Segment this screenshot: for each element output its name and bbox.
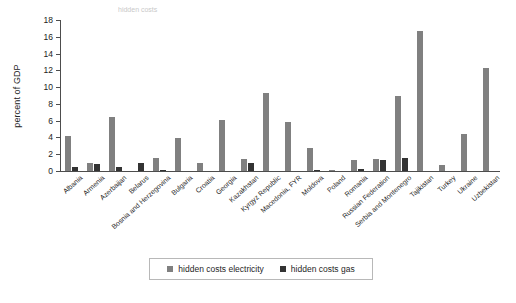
bar-group[interactable] xyxy=(324,20,346,171)
bar-group[interactable] xyxy=(171,20,193,171)
y-axis-tick-label: 2 xyxy=(48,150,53,159)
y-axis-tick-label: 10 xyxy=(44,83,53,92)
bar-gas[interactable] xyxy=(402,158,408,171)
bar-group[interactable] xyxy=(302,20,324,171)
bar-group[interactable] xyxy=(83,20,105,171)
x-axis-tick-label: Bulgaria xyxy=(170,174,194,197)
y-axis-tick-label: 16 xyxy=(44,33,53,42)
x-axis-line xyxy=(60,171,500,172)
y-axis-tick-label: 12 xyxy=(44,66,53,75)
x-axis-tick-label: Macedonia, FYR xyxy=(260,174,304,214)
y-axis-tick-label: 14 xyxy=(44,49,53,58)
bar-group[interactable] xyxy=(434,20,456,171)
y-axis-tick xyxy=(56,154,60,155)
bar-gas[interactable] xyxy=(94,164,100,171)
plot-area: 024681012141618 xyxy=(60,20,500,172)
bar-electricity[interactable] xyxy=(219,120,225,171)
bar-group[interactable] xyxy=(259,20,281,171)
bar-gas[interactable] xyxy=(72,167,78,171)
y-axis-tick-label: 6 xyxy=(48,116,53,125)
bar-group[interactable] xyxy=(478,20,500,171)
bar-group[interactable] xyxy=(149,20,171,171)
y-axis-label: percent of GDP xyxy=(10,20,24,172)
bar-group[interactable] xyxy=(412,20,434,171)
x-axis-tick-label: Albania xyxy=(62,174,84,195)
bar-group[interactable] xyxy=(127,20,149,171)
y-axis-tick xyxy=(56,70,60,71)
bar-gas[interactable] xyxy=(380,160,386,171)
bar-electricity[interactable] xyxy=(439,165,445,171)
y-axis-tick-label: 0 xyxy=(48,167,53,176)
title-fragment-right xyxy=(455,0,485,5)
bar-group[interactable] xyxy=(456,20,478,171)
bar-electricity[interactable] xyxy=(87,163,93,171)
bar-electricity[interactable] xyxy=(483,68,489,171)
legend-swatch-gas-icon xyxy=(280,266,286,272)
bar-electricity[interactable] xyxy=(65,136,71,171)
x-axis-tick-label: Moldova xyxy=(301,174,326,197)
legend-swatch-electricity-icon xyxy=(167,266,173,272)
bar-electricity[interactable] xyxy=(241,159,247,171)
bar-gas[interactable] xyxy=(314,170,320,171)
bar-electricity[interactable] xyxy=(417,31,423,171)
bar-electricity[interactable] xyxy=(285,122,291,171)
bar-electricity[interactable] xyxy=(307,148,313,171)
bar-gas[interactable] xyxy=(160,170,166,171)
chart-figure: hidden costs percent of GDP 024681012141… xyxy=(0,0,516,303)
y-axis-tick xyxy=(56,171,60,172)
x-axis-tick-label: Turkey xyxy=(436,174,457,194)
x-axis-tick-label: Tajikistan xyxy=(409,174,435,199)
legend-label-electricity: hidden costs electricity xyxy=(178,264,264,274)
bar-electricity[interactable] xyxy=(395,96,401,172)
bar-electricity[interactable] xyxy=(373,159,379,171)
bar-electricity[interactable] xyxy=(263,93,269,171)
x-axis-tick-label: Croatia xyxy=(194,174,216,195)
bar-group[interactable] xyxy=(346,20,368,171)
y-axis-label-text: percent of GDP xyxy=(12,64,22,127)
bar-group[interactable] xyxy=(237,20,259,171)
bar-group[interactable] xyxy=(281,20,303,171)
y-axis-tick-label: 4 xyxy=(48,133,53,142)
y-axis-tick xyxy=(56,54,60,55)
bar-electricity[interactable] xyxy=(109,117,115,171)
bar-electricity[interactable] xyxy=(351,160,357,171)
y-axis-tick xyxy=(56,137,60,138)
title-fragment: hidden costs xyxy=(118,6,208,13)
legend-item-electricity: hidden costs electricity xyxy=(167,264,264,274)
y-axis-tick xyxy=(56,121,60,122)
y-axis-tick-label: 8 xyxy=(48,100,53,109)
bar-electricity[interactable] xyxy=(153,158,159,171)
bar-gas[interactable] xyxy=(248,163,254,171)
bar-groups xyxy=(61,20,500,171)
legend-item-gas: hidden costs gas xyxy=(280,264,355,274)
bar-group[interactable] xyxy=(105,20,127,171)
bar-gas[interactable] xyxy=(116,167,122,171)
bar-gas[interactable] xyxy=(138,163,144,171)
bar-electricity[interactable] xyxy=(175,138,181,171)
bar-group[interactable] xyxy=(193,20,215,171)
chart-legend: hidden costs electricity hidden costs ga… xyxy=(149,258,373,280)
bar-group[interactable] xyxy=(215,20,237,171)
bar-electricity[interactable] xyxy=(329,170,335,171)
bar-electricity[interactable] xyxy=(197,163,203,171)
bar-group[interactable] xyxy=(390,20,412,171)
legend-label-gas: hidden costs gas xyxy=(291,264,355,274)
bar-group[interactable] xyxy=(61,20,83,171)
y-axis-tick xyxy=(56,37,60,38)
y-axis-tick xyxy=(56,104,60,105)
bar-electricity[interactable] xyxy=(461,134,467,171)
bar-group[interactable] xyxy=(368,20,390,171)
x-axis-labels: AlbaniaArmeniaAzerbaijanBelarusBosnia an… xyxy=(60,174,500,236)
y-axis-tick xyxy=(56,20,60,21)
y-axis-tick xyxy=(56,87,60,88)
y-axis-tick-label: 18 xyxy=(44,16,53,25)
bar-gas[interactable] xyxy=(358,169,364,171)
